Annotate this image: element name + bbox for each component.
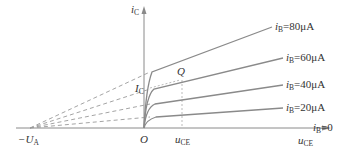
ic-label: IC [135, 83, 144, 96]
curve-label-60: iB=60μA [286, 52, 325, 65]
curve-label-40: iB=40μA [286, 79, 325, 92]
curve-label-20: iB=20μA [286, 102, 325, 115]
early-voltage-extrapolations [30, 72, 150, 128]
curve-ib-20 [144, 108, 283, 128]
q-point-label: Q [177, 66, 185, 77]
y-axis-label: iC [131, 4, 139, 17]
origin-label: O [140, 134, 148, 145]
curve-label-0: iB=0 [313, 122, 333, 135]
characteristic-curves [144, 27, 283, 128]
y-axis-arrow-icon [142, 6, 147, 14]
early-voltage-label: −UA [18, 134, 39, 147]
curve-ib-40 [144, 85, 283, 128]
uce-q-label: uCE [175, 134, 190, 147]
curve-label-80: iB=80μA [275, 21, 314, 34]
x-axis-label: uCE [298, 135, 313, 148]
curve-ib-60 [144, 58, 283, 128]
